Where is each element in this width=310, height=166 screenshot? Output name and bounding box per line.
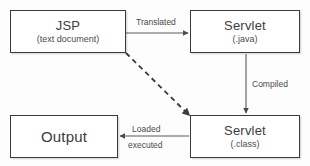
- node-jsp-title: JSP: [56, 18, 80, 33]
- node-servlet-class[interactable]: Servlet (.class): [190, 115, 300, 158]
- node-servlet-class-title: Servlet: [224, 123, 266, 138]
- edge-label-loaded: Loaded: [132, 124, 160, 134]
- edge-label-compiled: Compiled: [252, 79, 288, 89]
- node-jsp[interactable]: JSP (text document): [10, 10, 126, 53]
- edge-label-translated: Translated: [136, 17, 176, 27]
- node-jsp-subtitle: (text document): [37, 34, 100, 45]
- node-servlet-java-title: Servlet: [224, 18, 266, 33]
- node-servlet-java-subtitle: (.java): [232, 34, 257, 45]
- node-output[interactable]: Output: [10, 115, 118, 158]
- node-servlet-java[interactable]: Servlet (.java): [190, 10, 300, 53]
- node-output-title: Output: [41, 128, 87, 145]
- edge-direct-dashed-line: [126, 53, 189, 115]
- node-servlet-class-subtitle: (.class): [231, 139, 260, 150]
- edge-label-executed: executed: [128, 140, 163, 150]
- jsp-lifecycle-diagram: JSP (text document) Servlet (.java) Serv…: [0, 0, 310, 166]
